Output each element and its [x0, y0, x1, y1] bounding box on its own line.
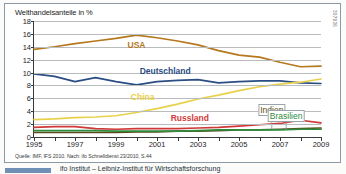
series-line-usa	[34, 35, 321, 67]
y-axis-tick-mark	[31, 60, 35, 61]
y-axis-tick-mark	[31, 98, 35, 99]
x-axis-tick-label: 2003	[190, 140, 207, 149]
chart-panel: Welthandelsanteile in % 307936 024681012…	[4, 3, 341, 163]
gridline	[34, 47, 321, 48]
plot-area: 0246810121416181995199719992001200320052…	[33, 21, 321, 138]
x-axis-tick-label: 2009	[313, 140, 330, 149]
series-label-deutschland: Deutschland	[140, 66, 191, 76]
gridline	[34, 98, 321, 99]
gridline	[34, 21, 321, 22]
y-axis-tick-mark	[31, 21, 35, 22]
series-label-usa: USA	[128, 40, 146, 50]
bottom-strip-bar	[5, 168, 51, 173]
series-label-russland: Russland	[171, 113, 209, 123]
chart-figure: Welthandelsanteile in % 307936 024681012…	[0, 0, 346, 174]
x-axis-tick-label: 1995	[26, 140, 43, 149]
x-axis-tick-label: 2005	[231, 140, 248, 149]
gridline	[34, 85, 321, 86]
y-axis-tick-mark	[31, 34, 35, 35]
x-axis-tick-mark	[55, 137, 56, 141]
bottom-strip-text: ifo Institut – Leibniz-Institut für Wirt…	[60, 165, 220, 172]
x-axis-tick-mark	[260, 137, 261, 141]
chart-source: Quelle: IMF, IFS 2010. Nach: ifo Schnell…	[15, 153, 152, 159]
y-axis-tick-mark	[31, 111, 35, 112]
image-id-code: 307936	[332, 10, 337, 27]
x-axis-tick-label: 2001	[149, 140, 166, 149]
y-axis-tick-mark	[31, 73, 35, 74]
series-line-brasilien	[34, 129, 321, 131]
y-axis-tick-mark	[31, 85, 35, 86]
gridline	[34, 34, 321, 35]
gridline	[34, 60, 321, 61]
x-axis-tick-label: 1997	[67, 140, 84, 149]
x-axis-tick-label: 2007	[272, 140, 289, 149]
gridline	[34, 124, 321, 125]
x-axis-tick-mark	[96, 137, 97, 141]
x-axis-tick-label: 1999	[108, 140, 125, 149]
x-axis-tick-mark	[219, 137, 220, 141]
x-axis-tick-mark	[301, 137, 302, 141]
x-axis-tick-mark	[137, 137, 138, 141]
y-axis-tick-mark	[31, 47, 35, 48]
series-label-brasilien: Brasilien	[268, 110, 305, 122]
series-label-china: China	[131, 92, 155, 102]
x-axis-tick-mark	[178, 137, 179, 141]
bottom-strip: ifo Institut – Leibniz-Institut für Wirt…	[0, 165, 346, 174]
y-axis-tick-mark	[31, 124, 35, 125]
